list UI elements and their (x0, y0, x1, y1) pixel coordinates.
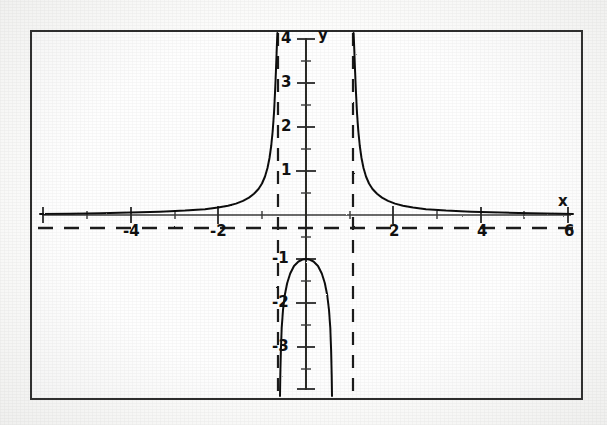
curve-right-branch (354, 33, 573, 214)
y-tick-label-4: 4 (281, 29, 291, 47)
y-tick-label-3: 3 (281, 73, 291, 91)
graph-canvas (0, 0, 607, 425)
y-tick-label-2: 2 (281, 117, 291, 135)
y-tick-label-1: 1 (281, 161, 291, 179)
x-tick-label--4: -4 (123, 222, 140, 240)
graph-figure: x y -4 -2 2 4 6 4 3 2 1 -1 -2 -3 (0, 0, 607, 425)
x-axis-label: x (558, 192, 567, 210)
curve-left-branch (40, 33, 277, 214)
x-tick-label-6: 6 (564, 222, 574, 240)
y-axis-label: y (318, 26, 327, 44)
x-tick-label--2: -2 (210, 222, 227, 240)
x-tick-label-2: 2 (389, 222, 399, 240)
x-tick-label-4: 4 (477, 222, 487, 240)
y-tick-label--3: -3 (272, 337, 289, 355)
y-tick-label--2: -2 (272, 293, 289, 311)
y-tick-label--1: -1 (272, 249, 289, 267)
